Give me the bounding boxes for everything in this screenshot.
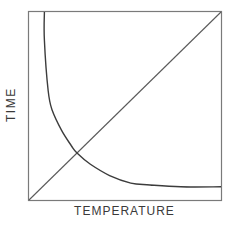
x-axis-label: TEMPERATURE: [28, 204, 221, 218]
linear-series-line: [29, 12, 221, 200]
y-axis-label: TIME: [0, 102, 22, 122]
chart-canvas: [0, 0, 237, 226]
